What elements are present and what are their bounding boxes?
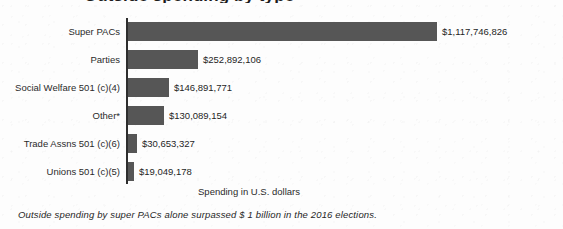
category-label-trade-assns: Trade Assns 501 (c)(6)	[0, 138, 120, 149]
bar-parties	[128, 50, 198, 69]
bar-rows: Super PACs $1,117,746,826 Parties $252,8…	[0, 17, 563, 185]
bar-track: $130,089,154	[128, 101, 563, 129]
bar-track: $1,117,746,826	[128, 17, 563, 45]
bar-row: Other* $130,089,154	[0, 101, 563, 129]
category-label-social-welfare: Social Welfare 501 (c)(4)	[0, 82, 120, 93]
bar-value-other: $130,089,154	[169, 110, 227, 121]
category-label-parties: Parties	[0, 54, 120, 65]
bar-value-trade-assns: $30,653,327	[142, 138, 195, 149]
bar-other	[128, 106, 164, 125]
bar-trade-assns	[128, 134, 137, 153]
bar-social-welfare	[128, 78, 169, 97]
bar-unions	[128, 162, 134, 181]
bar-row: Social Welfare 501 (c)(4) $146,891,771	[0, 73, 563, 101]
bar-chart-plot-area: Super PACs $1,117,746,826 Parties $252,8…	[0, 17, 563, 185]
bar-track: $19,049,178	[128, 157, 563, 185]
bar-row: Super PACs $1,117,746,826	[0, 17, 563, 45]
chart-title-cropped: Outside spending by type	[84, 0, 384, 3]
x-axis-title: Spending in U.S. dollars	[0, 186, 498, 197]
bar-track: $252,892,106	[128, 45, 563, 73]
bar-track: $30,653,327	[128, 129, 563, 157]
category-label-other: Other*	[0, 110, 120, 121]
chart-caption: Outside spending by super PACs alone sur…	[18, 209, 377, 220]
category-label-unions: Unions 501 (c)(5)	[0, 166, 120, 177]
bar-row: Trade Assns 501 (c)(6) $30,653,327	[0, 129, 563, 157]
bar-value-social-welfare: $146,891,771	[174, 82, 232, 93]
bar-value-parties: $252,892,106	[203, 54, 261, 65]
chart-title-text: Outside spending by type	[84, 0, 384, 3]
bar-track: $146,891,771	[128, 73, 563, 101]
category-label-super-pacs: Super PACs	[0, 26, 120, 37]
bar-value-super-pacs: $1,117,746,826	[442, 26, 507, 37]
bar-row: Unions 501 (c)(5) $19,049,178	[0, 157, 563, 185]
bar-super-pacs	[128, 22, 437, 41]
bar-value-unions: $19,049,178	[139, 166, 192, 177]
bar-row: Parties $252,892,106	[0, 45, 563, 73]
